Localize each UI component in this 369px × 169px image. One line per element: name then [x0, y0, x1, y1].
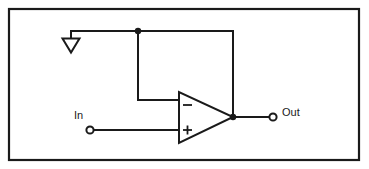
output-terminal-node	[269, 113, 276, 120]
operational-amplifier-symbol	[179, 92, 233, 143]
schematic-figure: In Out	[0, 0, 369, 169]
feedback-top-junction-dot	[135, 28, 141, 34]
wire-feedback-left-branch	[138, 31, 179, 100]
input-label: In	[74, 110, 83, 121]
output-label: Out	[282, 107, 300, 118]
input-terminal-node	[86, 126, 93, 133]
ground-arrowhead-icon	[63, 39, 80, 53]
output-junction-dot	[230, 114, 236, 120]
circuit-canvas	[0, 0, 369, 169]
